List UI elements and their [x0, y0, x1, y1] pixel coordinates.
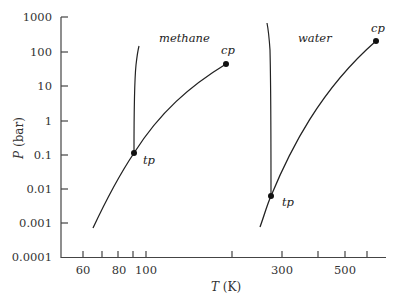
- methane-critical-point-marker: [223, 61, 229, 67]
- water-cp-label: cp: [371, 21, 385, 35]
- x-tick-labels: 60 80 100 300 500: [76, 263, 356, 277]
- y-tick-0.001: 0.001: [19, 216, 52, 230]
- y-axis-title: P (bar): [12, 117, 26, 160]
- y-tick-0.1: 0.1: [34, 148, 52, 162]
- y-tick-0.0001: 0.0001: [12, 250, 52, 264]
- x-tick-80: 80: [112, 263, 127, 277]
- water-vaporization-curve: [260, 41, 376, 227]
- water-triple-point-marker: [268, 193, 274, 199]
- water-label: water: [298, 31, 333, 45]
- methane-triple-point-marker: [131, 150, 137, 156]
- x-tick-500: 500: [334, 263, 356, 277]
- x-tick-300: 300: [271, 263, 293, 277]
- y-tick-10: 10: [37, 79, 52, 93]
- x-axis-title: T (K): [211, 280, 241, 294]
- x-tick-100: 100: [135, 263, 157, 277]
- water-critical-point-marker: [373, 38, 379, 44]
- water-tp-label: tp: [282, 195, 295, 209]
- methane-cp-label: cp: [221, 43, 235, 57]
- y-tick-0.01: 0.01: [26, 182, 52, 196]
- phase-diagram-chart: 1000 100 10 1 0.1 0.01 0.001 0.0001 60 8…: [0, 0, 396, 303]
- x-ticks: [83, 251, 367, 257]
- y-tick-1: 1: [45, 114, 52, 128]
- methane-label: methane: [159, 31, 210, 45]
- x-tick-60: 60: [76, 263, 91, 277]
- methane-tp-label: tp: [143, 153, 156, 167]
- water-melting-curve: [267, 23, 271, 196]
- methane-melting-curve: [134, 46, 139, 153]
- y-tick-100: 100: [30, 45, 52, 59]
- methane-vaporization-curve: [93, 64, 226, 228]
- y-ticks: [61, 17, 68, 223]
- y-tick-1000: 1000: [23, 10, 52, 24]
